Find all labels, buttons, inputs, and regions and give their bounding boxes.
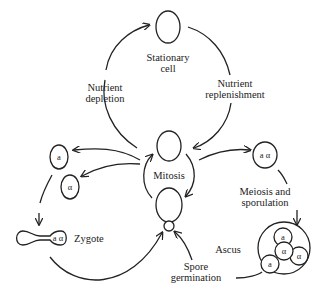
meiosis-line — [278, 170, 287, 184]
spore-germination-label-2: germination — [171, 272, 222, 283]
mitosis-cell-top — [157, 131, 181, 161]
zygote-nucleus-label: a α — [53, 233, 64, 243]
nutrient-depletion-label-1: Nutrient — [88, 82, 123, 93]
replenishment-arrow — [194, 103, 231, 148]
depletion-arrow — [106, 25, 149, 70]
ascus-label: Ascus — [215, 244, 241, 255]
zygote-label: Zygote — [74, 233, 104, 244]
replenishment-arc-upper — [188, 27, 230, 75]
germination-line — [236, 272, 262, 278]
meiosis-label-2: sporulation — [241, 197, 289, 208]
spore-1-label: a — [281, 232, 285, 242]
mitosis-loop-right-arrow — [186, 154, 194, 196]
arrow-to-diploid — [199, 149, 250, 160]
nutrient-depletion-label-2: depletion — [85, 93, 125, 104]
spore-2-label: α — [282, 246, 287, 256]
mitosis-cell-bottom — [156, 188, 182, 231]
mating-arc — [40, 175, 52, 203]
stationary-cell — [156, 11, 180, 43]
mitosis-loop-left-arrow — [144, 155, 152, 198]
spore-germination-label-1: Spore — [184, 261, 209, 272]
nutrient-replenishment-label-2: replenishment — [205, 89, 265, 100]
yeast-life-cycle-diagram: Stationary cell Nutrient depletion Nutri… — [0, 0, 328, 295]
arrow-to-haploid-alpha — [82, 164, 140, 176]
mitosis-label: Mitosis — [153, 170, 185, 181]
spore-3-label: α — [297, 251, 302, 261]
germination-arrow — [175, 232, 192, 260]
stationary-cell-label-2: cell — [160, 63, 175, 74]
haploid-a-label: a — [57, 152, 61, 162]
zygote-to-mitosis-arrow — [50, 233, 162, 280]
meiosis-label-1: Meiosis and — [239, 186, 291, 197]
stationary-cell-label-1: Stationary — [146, 52, 190, 63]
nutrient-replenishment-label-1: Nutrient — [218, 78, 253, 89]
spore-4-label: a — [268, 259, 272, 269]
haploid-alpha-label: α — [68, 182, 73, 192]
arrow-to-haploid-a — [74, 149, 140, 160]
diploid-label: a α — [260, 150, 271, 160]
